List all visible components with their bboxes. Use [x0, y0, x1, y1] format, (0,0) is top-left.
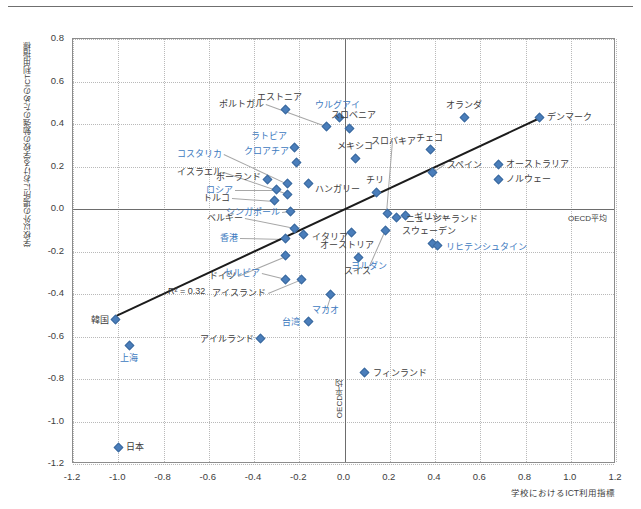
chart-page: 学校以外の場所における学校の勉強のためのICT利用指標 学校におけるICT利用指… — [0, 0, 641, 509]
data-point-marker[interactable] — [360, 368, 370, 378]
y-tick-label: 0.4 — [0, 117, 64, 128]
gridline-vertical — [164, 39, 165, 462]
data-point-label: ウルグアイ — [315, 100, 360, 109]
data-point-marker[interactable] — [303, 317, 313, 327]
x-tick-label: -1.2 — [52, 471, 92, 482]
data-point-marker[interactable] — [493, 159, 503, 169]
data-point-label: ベルギー — [207, 214, 243, 223]
data-point-label: 台湾 — [282, 317, 300, 326]
data-point-marker[interactable] — [380, 225, 390, 235]
data-point-marker[interactable] — [392, 213, 402, 223]
data-point-marker[interactable] — [459, 113, 469, 123]
data-point-label: オーストラリア — [506, 160, 569, 169]
y-tick-label: -0.8 — [0, 372, 64, 383]
data-point-label: ラトビア — [251, 132, 287, 141]
gridline-horizontal — [73, 252, 614, 253]
plot-area: R² = 0.32 エストニアポルトガルウルグアイスロベニアラトビアクロアチアメ… — [72, 38, 615, 463]
y-axis-title: 学校以外の場所における学校の勉強のためのICT利用指標 — [22, 42, 33, 247]
data-point-label: アイルランド — [200, 334, 254, 343]
data-point-marker[interactable] — [281, 274, 291, 284]
top-divider — [8, 6, 633, 7]
y-tick-label: -0.2 — [0, 245, 64, 256]
x-tick-label: 1.2 — [595, 471, 635, 482]
data-point-marker[interactable] — [111, 315, 121, 325]
x-tick-label: -0.4 — [233, 471, 273, 482]
gridline-horizontal — [73, 464, 614, 465]
data-point-label: チリ — [366, 176, 384, 185]
data-point-label: ポルトガル — [219, 100, 264, 109]
data-point-label: デンマーク — [547, 112, 592, 121]
data-point-label: クロアチア — [244, 147, 289, 156]
data-point-marker[interactable] — [283, 179, 293, 189]
x-tick-label: 0.4 — [414, 471, 454, 482]
gridline-vertical — [73, 39, 74, 462]
data-point-label: スロベニア — [331, 111, 376, 120]
x-tick-label: 1.0 — [550, 471, 590, 482]
data-point-marker[interactable] — [297, 274, 307, 284]
data-point-marker[interactable] — [256, 334, 266, 344]
leader-line — [235, 190, 277, 191]
data-point-marker[interactable] — [269, 196, 279, 206]
data-point-marker[interactable] — [351, 153, 361, 163]
data-point-label: 日本 — [126, 443, 144, 452]
data-point-label: スイス — [344, 266, 371, 275]
data-point-marker[interactable] — [125, 340, 135, 350]
oecd-average-horizontal-label: OECD平均 — [568, 212, 607, 223]
data-point-label: 韓国 — [91, 315, 109, 324]
data-point-marker[interactable] — [426, 145, 436, 155]
data-point-marker[interactable] — [493, 174, 503, 184]
y-tick-label: -0.4 — [0, 287, 64, 298]
data-point-label: 香港 — [220, 233, 238, 242]
gridline-horizontal — [73, 294, 614, 295]
data-point-marker[interactable] — [303, 179, 313, 189]
data-point-label: メキシコ — [337, 142, 373, 151]
x-tick-label: 0.2 — [369, 471, 409, 482]
gridline-horizontal — [73, 82, 614, 83]
gridline-vertical — [209, 39, 210, 462]
leader-line — [245, 218, 295, 229]
gridline-vertical — [299, 39, 300, 462]
gridline-horizontal — [73, 337, 614, 338]
data-point-label: スロバキア — [371, 137, 416, 146]
gridline-vertical — [616, 39, 617, 462]
data-point-label: チェコ — [416, 133, 443, 142]
gridline-horizontal — [73, 422, 614, 423]
y-tick-label: -0.6 — [0, 330, 64, 341]
data-point-label: オーストリア — [320, 241, 374, 250]
data-point-label: スウェーデン — [402, 227, 456, 236]
data-point-label: ギリシャ — [414, 213, 450, 222]
r-squared-annotation: R² = 0.32 — [168, 286, 205, 296]
gridline-horizontal — [73, 39, 614, 40]
data-point-marker[interactable] — [283, 189, 293, 199]
y-tick-label: 0.2 — [0, 160, 64, 171]
data-point-label: リヒテンシュタイン — [446, 243, 527, 252]
data-point-label: ハンガリー — [315, 184, 360, 193]
data-point-label: ポーランド — [216, 173, 261, 182]
y-tick-label: -1.2 — [0, 457, 64, 468]
data-point-label: オランダ — [446, 100, 482, 109]
gridline-vertical — [390, 39, 391, 462]
data-point-label: ドイツ — [209, 271, 236, 280]
gridline-vertical — [118, 39, 119, 462]
x-tick-label: -1.0 — [97, 471, 137, 482]
data-point-label: マカオ — [312, 306, 339, 315]
y-tick-label: 0.8 — [0, 32, 64, 43]
x-tick-label: -0.8 — [143, 471, 183, 482]
data-point-label: アイスランド — [212, 289, 266, 298]
x-tick-label: 0.6 — [459, 471, 499, 482]
data-point-marker[interactable] — [321, 121, 331, 131]
data-point-label: トルコ — [203, 193, 230, 202]
data-point-marker[interactable] — [326, 289, 336, 299]
x-axis-title: 学校におけるICT利用指標 — [511, 486, 615, 498]
data-point-marker[interactable] — [290, 142, 300, 152]
data-point-marker[interactable] — [113, 442, 123, 452]
data-point-label: ノルウェー — [506, 175, 551, 184]
data-point-marker[interactable] — [346, 227, 356, 237]
gridline-vertical — [435, 39, 436, 462]
data-point-marker[interactable] — [272, 185, 282, 195]
x-tick-label: -0.2 — [278, 471, 318, 482]
data-point-marker[interactable] — [299, 230, 309, 240]
data-point-marker[interactable] — [285, 206, 295, 216]
data-point-label: フィンランド — [373, 368, 427, 377]
data-point-label: 上海 — [120, 354, 138, 363]
